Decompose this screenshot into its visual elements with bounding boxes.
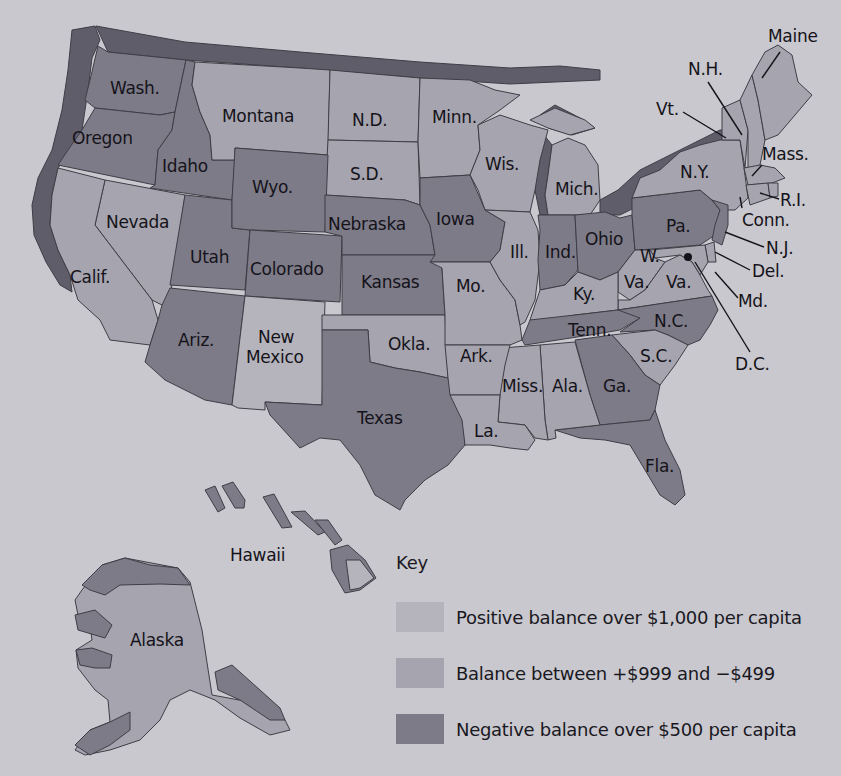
label-sd: S.D. [350,164,384,184]
label-ark: Ark. [460,346,493,366]
label-la: La. [474,421,498,441]
pointer-del [715,252,750,270]
label-ind: Ind. [545,242,576,262]
label-kansas: Kansas [361,272,420,292]
label-texas: Texas [356,408,403,428]
label-mich: Mich. [555,179,598,199]
label-nh: N.H. [688,59,723,79]
label-dc: D.C. [735,354,770,374]
label-miss: Miss. [502,376,543,396]
legend-item-positive: Positive balance over $1,000 per capita [396,589,841,645]
label-nm-line2: Mexico [246,347,304,367]
label-ohio: Ohio [585,229,623,249]
pointer-nj [725,232,764,247]
label-nm-line1: New [258,327,295,347]
label-tenn: Tenn. [567,320,611,340]
legend-swatch-negative [396,714,444,744]
state-mass[interactable] [744,165,785,185]
label-minn: Minn. [432,107,477,127]
label-vt: Vt. [656,99,679,119]
label-va: Va. [666,272,691,292]
label-ky: Ky. [573,284,595,304]
label-md: Md. [738,291,768,311]
hawaii-island-1[interactable] [205,486,225,512]
label-alaska: Alaska [130,630,184,650]
label-calif: Calif. [70,267,110,287]
label-ala: Ala. [552,376,583,396]
label-wis: Wis. [485,154,519,174]
state-nd[interactable] [328,70,420,142]
hawaii-island-3[interactable] [263,494,292,528]
legend: Key Positive balance over $1,000 per cap… [396,552,841,757]
label-wva-1: W. [640,246,660,266]
label-wyo: Wyo. [252,177,293,197]
legend-swatch-balance [396,658,444,688]
label-hawaii: Hawaii [230,545,285,565]
label-ill: Ill. [510,242,529,262]
dc-marker [684,253,692,261]
label-wash: Wash. [110,78,160,98]
label-nevada: Nevada [106,212,169,232]
legend-item-balance: Balance between +$999 and −$499 [396,645,841,701]
label-idaho: Idaho [162,156,208,176]
label-ga: Ga. [603,376,631,396]
label-ny: N.Y. [680,162,709,182]
label-sc: S.C. [640,346,672,366]
legend-swatch-positive [396,602,444,632]
label-wva-2: Va. [624,272,649,292]
legend-label-balance: Balance between +$999 and −$499 [456,663,775,684]
label-fla: Fla. [645,456,674,476]
label-ri: R.I. [780,190,806,210]
legend-label-positive: Positive balance over $1,000 per capita [456,607,802,628]
legend-item-negative: Negative balance over $500 per capita [396,701,841,757]
label-nc: N.C. [654,311,688,331]
label-mo: Mo. [456,276,485,296]
label-nd: N.D. [352,110,387,130]
pointer-md [715,272,738,298]
alaska-region-southwest[interactable] [75,712,130,755]
label-okla: Okla. [388,334,430,354]
legend-title: Key [396,552,841,573]
label-conn: Conn. [742,210,790,230]
label-oregon: Oregon [72,128,133,148]
label-ariz: Ariz. [178,330,214,350]
label-pa: Pa. [666,216,690,236]
label-montana: Montana [222,106,294,126]
label-colorado: Colorado [250,259,324,279]
hawaii-island-big-light[interactable] [346,560,374,590]
legend-label-negative: Negative balance over $500 per capita [456,719,796,740]
label-mass: Mass. [762,144,809,164]
label-utah: Utah [190,247,229,267]
label-del: Del. [752,261,784,281]
label-nebraska: Nebraska [328,214,406,234]
hawaii-island-2[interactable] [222,482,245,508]
label-maine: Maine [768,26,818,46]
state-conn[interactable] [746,183,770,205]
label-iowa: Iowa [436,209,475,229]
label-nj: N.J. [766,238,793,258]
pointer-vt [683,112,726,138]
